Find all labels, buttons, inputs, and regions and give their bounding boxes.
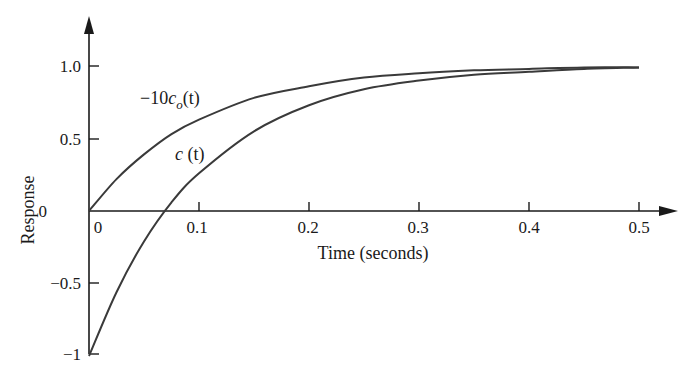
- curve-label-minus-10-co: −10co(t): [140, 88, 200, 112]
- y-tick-label: −1: [63, 345, 81, 364]
- x-axis-arrow-icon: [659, 206, 678, 216]
- x-tick-label: 0.3: [407, 218, 428, 237]
- x-tick-label: 0.2: [297, 218, 318, 237]
- y-tick-label: 1.0: [60, 57, 81, 76]
- y-tick-label: −0.5: [50, 274, 81, 293]
- x-tick-label: 0.1: [186, 218, 207, 237]
- x-tick-label: 0: [94, 218, 103, 237]
- y-axis-title: Response: [18, 175, 38, 244]
- y-axis-arrow-icon: [84, 16, 94, 34]
- x-tick-label: 0.5: [628, 218, 649, 237]
- x-axis-title: Time (seconds): [318, 243, 429, 264]
- response-chart: 1.0 0.5 0 −0.5 −1 0 0.1 0.2 0.3 0.4 0.5 …: [0, 0, 700, 376]
- y-tick-label: 0: [39, 202, 48, 221]
- curve-label-c-t: c (t): [175, 144, 205, 165]
- y-tick-label: 0.5: [60, 130, 81, 149]
- x-tick-label: 0.4: [518, 218, 540, 237]
- x-ticks: [199, 202, 639, 211]
